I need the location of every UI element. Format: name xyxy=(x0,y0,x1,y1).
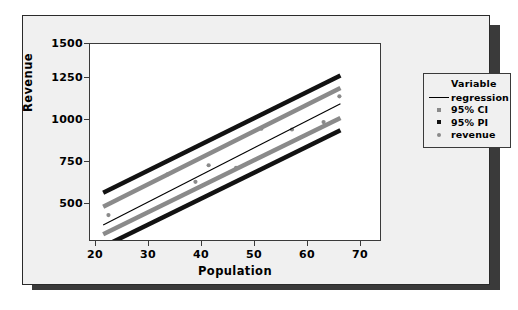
data-point-0 xyxy=(106,213,110,217)
legend-item-revenue[interactable]: revenue xyxy=(424,129,510,142)
chart-canvas: Revenue 1500 1250 1000 750 500 20 30 40 … xyxy=(0,0,518,310)
x-tickmark-50 xyxy=(254,241,255,246)
legend-label-regression: regression xyxy=(451,92,509,103)
data-point-8 xyxy=(337,94,341,98)
x-axis-label: Population xyxy=(89,264,381,278)
legend-square-gray-icon xyxy=(427,108,451,112)
legend-square-black-icon xyxy=(427,120,451,124)
x-tickmark-70 xyxy=(360,241,361,246)
y-tick-label-1500: 1500 xyxy=(41,37,83,50)
plot-area xyxy=(89,43,381,241)
legend-line-icon xyxy=(427,97,451,99)
x-tick-label-50: 50 xyxy=(240,248,268,261)
y-tick-label-500: 500 xyxy=(41,197,83,210)
legend-title: Variable xyxy=(451,78,510,89)
y-tick-label-1000: 1000 xyxy=(41,113,83,126)
series-line-regression xyxy=(103,104,340,225)
x-tick-label-30: 30 xyxy=(134,248,162,261)
data-point-3 xyxy=(207,163,211,167)
legend-label-pi: 95% PI xyxy=(451,117,488,128)
x-tickmark-60 xyxy=(307,241,308,246)
legend-label-revenue: revenue xyxy=(451,129,495,140)
x-tickmark-40 xyxy=(201,241,202,246)
x-tickmark-30 xyxy=(148,241,149,246)
y-tick-label-750: 750 xyxy=(41,155,83,168)
x-tick-label-70: 70 xyxy=(346,248,374,261)
data-point-2 xyxy=(193,180,197,184)
x-tick-label-60: 60 xyxy=(293,248,321,261)
legend-circle-gray-icon xyxy=(427,133,451,137)
chart-panel: Revenue 1500 1250 1000 750 500 20 30 40 … xyxy=(22,15,490,285)
x-tick-label-20: 20 xyxy=(81,248,109,261)
legend-item-pi[interactable]: 95% PI xyxy=(424,116,510,129)
y-axis-label: Revenue xyxy=(21,53,35,112)
x-tick-label-40: 40 xyxy=(187,248,215,261)
legend[interactable]: Variable regression 95% CI 95% PI revenu… xyxy=(423,73,511,148)
x-tickmark-20 xyxy=(95,241,96,246)
plot-svg xyxy=(90,44,380,240)
legend-label-ci: 95% CI xyxy=(451,104,488,115)
y-tick-label-1250: 1250 xyxy=(41,71,83,84)
legend-item-regression[interactable]: regression xyxy=(424,91,510,104)
legend-item-ci[interactable]: 95% CI xyxy=(424,104,510,117)
